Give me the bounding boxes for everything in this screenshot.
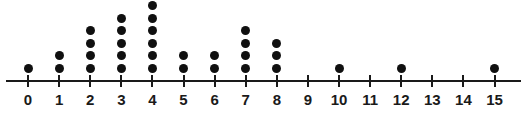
- data-dot: [55, 64, 64, 73]
- x-axis-tick-label: 11: [354, 91, 386, 108]
- x-axis-tick-label: 3: [105, 91, 137, 108]
- x-axis-line: [6, 80, 521, 82]
- data-dot: [179, 64, 188, 73]
- x-axis-tick-label: 10: [323, 91, 355, 108]
- data-dot: [210, 51, 219, 60]
- data-dot: [241, 39, 250, 48]
- data-dot: [148, 1, 157, 10]
- data-dot: [24, 64, 33, 73]
- x-axis-tick: [400, 75, 402, 87]
- x-axis-tick: [89, 75, 91, 87]
- data-dot: [55, 51, 64, 60]
- data-dot: [148, 39, 157, 48]
- x-axis-tick-label: 2: [74, 91, 106, 108]
- x-axis-tick: [27, 75, 29, 87]
- data-dot: [86, 39, 95, 48]
- data-dot: [86, 51, 95, 60]
- x-axis-tick-label: 13: [416, 91, 448, 108]
- data-dot: [148, 14, 157, 23]
- x-axis-tick: [120, 75, 122, 87]
- dot-plot-figure: 0123456789101112131415: [0, 0, 528, 119]
- data-dot: [179, 51, 188, 60]
- data-dot: [148, 64, 157, 73]
- x-axis-tick-label: 9: [292, 91, 324, 108]
- x-axis-tick-label: 6: [199, 91, 231, 108]
- data-dot: [335, 64, 344, 73]
- x-axis-tick: [431, 75, 433, 87]
- data-dot: [117, 64, 126, 73]
- x-axis-tick: [369, 75, 371, 87]
- x-axis-tick-label: 0: [12, 91, 44, 108]
- data-dot: [210, 64, 219, 73]
- data-dot: [490, 64, 499, 73]
- x-axis-tick-label: 8: [261, 91, 293, 108]
- x-axis-tick-label: 12: [385, 91, 417, 108]
- data-dot: [117, 26, 126, 35]
- data-dot: [148, 26, 157, 35]
- data-dot: [117, 39, 126, 48]
- data-dot: [272, 39, 281, 48]
- x-axis-tick-label: 7: [230, 91, 262, 108]
- x-axis-tick: [58, 75, 60, 87]
- data-dot: [86, 64, 95, 73]
- data-dot: [241, 26, 250, 35]
- x-axis-tick: [494, 75, 496, 87]
- x-axis-tick: [214, 75, 216, 87]
- data-dot: [272, 64, 281, 73]
- data-dot: [272, 51, 281, 60]
- x-axis-tick-label: 1: [43, 91, 75, 108]
- data-dot: [148, 51, 157, 60]
- dot-plot-canvas: 0123456789101112131415: [0, 0, 528, 119]
- x-axis-tick: [183, 75, 185, 87]
- x-axis-tick: [307, 75, 309, 87]
- x-axis-tick: [276, 75, 278, 87]
- data-dot: [241, 64, 250, 73]
- data-dot: [86, 26, 95, 35]
- data-dot: [397, 64, 406, 73]
- data-dot: [241, 51, 250, 60]
- x-axis-tick-label: 4: [136, 91, 168, 108]
- data-dot: [117, 14, 126, 23]
- x-axis-tick: [151, 75, 153, 87]
- x-axis-tick: [462, 75, 464, 87]
- x-axis-tick-label: 15: [479, 91, 511, 108]
- data-dot: [117, 51, 126, 60]
- x-axis-tick: [338, 75, 340, 87]
- x-axis-tick-label: 14: [447, 91, 479, 108]
- x-axis-tick-label: 5: [168, 91, 200, 108]
- x-axis-tick: [245, 75, 247, 87]
